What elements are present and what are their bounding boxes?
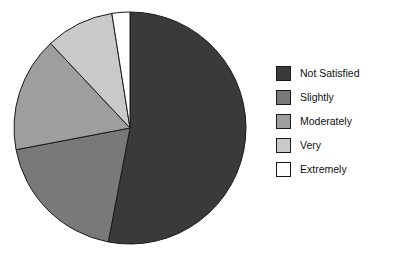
legend-swatch-icon-not-satisfied — [276, 66, 291, 81]
legend-label-slightly: Slightly — [300, 91, 334, 104]
legend-item-moderately[interactable]: Moderately — [276, 112, 403, 130]
legend-item-very[interactable]: Very — [276, 136, 403, 154]
legend-label-extremely: Extremely — [300, 163, 347, 176]
pie-plot-area — [0, 0, 262, 255]
legend-swatch-icon-extremely — [276, 162, 291, 177]
legend-item-extremely[interactable]: Extremely — [276, 160, 403, 178]
legend-swatch-icon-very — [276, 138, 291, 153]
pie-slice-group — [14, 12, 246, 244]
pie-svg — [0, 0, 262, 255]
legend-swatch-icon-slightly — [276, 90, 291, 105]
chart-legend: Not Satisfied Slightly Moderately Very E… — [276, 64, 403, 178]
legend-label-very: Very — [300, 139, 321, 152]
legend-swatch-icon-moderately — [276, 114, 291, 129]
legend-item-slightly[interactable]: Slightly — [276, 88, 403, 106]
pie-chart-figure: Not Satisfied Slightly Moderately Very E… — [0, 0, 403, 255]
legend-label-moderately: Moderately — [300, 115, 352, 128]
legend-label-not-satisfied: Not Satisfied — [300, 67, 360, 80]
legend-item-not-satisfied[interactable]: Not Satisfied — [276, 64, 403, 82]
